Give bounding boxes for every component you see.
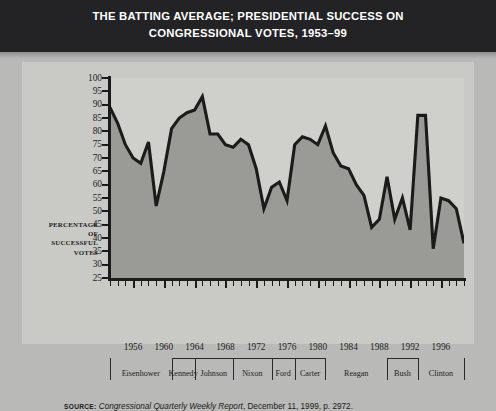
term-label-carter: Carter	[300, 369, 320, 378]
x-tick-label-1968: 1968	[216, 342, 235, 352]
x-tickmark-1982	[333, 281, 334, 286]
term-label-reagan: Reagan	[344, 369, 368, 378]
y-tickmark-70	[102, 157, 108, 159]
x-tick-label-1964: 1964	[185, 342, 204, 352]
y-tickmark-100	[102, 77, 108, 79]
y-tick-label-35: 35	[68, 246, 102, 256]
y-tickmark-55	[102, 197, 108, 199]
x-tickmark-1972	[256, 281, 258, 288]
x-tickmark-1970	[241, 281, 242, 286]
x-tickmark-1976	[287, 281, 289, 288]
x-axis-tick-labels: 1956196019641968197219761980198419881992…	[110, 342, 464, 356]
x-tickmark-1994	[426, 281, 427, 286]
y-tick-label-40: 40	[68, 233, 102, 243]
x-tickmark-1956	[133, 281, 135, 288]
x-tickmark-1978	[302, 281, 303, 286]
y-tickmark-40	[102, 237, 108, 239]
x-tickmark-1992	[410, 281, 412, 288]
x-tickmark-1999	[464, 281, 465, 286]
page-right-margin	[474, 59, 496, 368]
x-tickmark-1984	[349, 281, 351, 288]
x-tickmark-1986	[364, 281, 365, 286]
x-tickmark-1973	[264, 281, 265, 286]
x-tick-label-1976: 1976	[278, 342, 297, 352]
figure-panel: PERCENTAGE OF SUCCESSFUL VOTES 253035404…	[22, 62, 474, 344]
x-tickmark-1990	[395, 281, 396, 286]
y-tick-label-45: 45	[68, 219, 102, 229]
y-tickmark-95	[102, 90, 108, 92]
x-tickmark-1958	[148, 281, 149, 286]
y-tick-label-55: 55	[68, 193, 102, 203]
term-label-kennedy: Kennedy	[169, 369, 198, 378]
title-band-shadow	[0, 52, 496, 59]
x-tickmark-1957	[141, 281, 142, 286]
chart-title-line-1: THE BATTING AVERAGE; PRESIDENTIAL SUCCES…	[0, 8, 496, 25]
x-tickmark-1968	[225, 281, 227, 288]
y-tickmark-25	[102, 277, 108, 279]
x-tickmark-1974	[272, 281, 273, 286]
y-tick-label-80: 80	[68, 126, 102, 136]
x-tickmark-1987	[372, 281, 373, 286]
x-tick-label-1960: 1960	[155, 342, 174, 352]
area-fill	[110, 97, 464, 278]
title-band: THE BATTING AVERAGE; PRESIDENTIAL SUCCES…	[0, 0, 496, 52]
x-tickmark-1977	[295, 281, 296, 286]
term-brace-kennedy	[172, 358, 195, 368]
term-brace-nixon	[233, 358, 271, 368]
x-tickmark-1962	[179, 281, 180, 286]
x-tickmark-1981	[325, 281, 326, 286]
plot-area	[110, 78, 464, 278]
x-tickmark-1966	[210, 281, 211, 286]
x-tickmark-1995	[433, 281, 434, 286]
presidential-terms-band: EisenhowerKennedyJohnsonNixonFordCarterR…	[110, 358, 470, 384]
x-tickmark-1988	[379, 281, 381, 288]
source-note: SOURCE: Congressional Quarterly Weekly R…	[64, 402, 494, 411]
x-tickmark-1953	[110, 281, 111, 286]
x-tickmark-1997	[449, 281, 450, 286]
x-tickmark-1965	[202, 281, 203, 286]
term-divider-1981	[325, 358, 326, 380]
term-label-bush: Bush	[394, 369, 411, 378]
term-label-clinton: Clinton	[429, 369, 453, 378]
term-brace-ford	[272, 358, 295, 368]
y-tickmark-90	[102, 104, 108, 106]
y-tick-label-70: 70	[68, 153, 102, 163]
y-tickmark-45	[102, 224, 108, 226]
x-tick-label-1988: 1988	[370, 342, 389, 352]
x-tickmark-1989	[387, 281, 388, 286]
x-tickmark-1969	[233, 281, 234, 286]
term-label-eisenhower: Eisenhower	[122, 369, 160, 378]
x-tickmark-1975	[279, 281, 280, 286]
y-tickmark-80	[102, 130, 108, 132]
x-tickmark-1980	[318, 281, 320, 288]
x-tickmark-1961	[172, 281, 173, 286]
term-label-nixon: Nixon	[242, 369, 262, 378]
y-axis-line	[108, 76, 111, 280]
x-tick-label-1972: 1972	[247, 342, 266, 352]
term-label-ford: Ford	[275, 369, 290, 378]
y-tickmark-35	[102, 250, 108, 252]
x-tickmark-1979	[310, 281, 311, 286]
x-tickmark-1964	[195, 281, 197, 288]
x-tickmark-1954	[118, 281, 119, 286]
x-tickmark-1967	[218, 281, 219, 286]
y-tickmark-50	[102, 210, 108, 212]
y-tick-label-25: 25	[68, 273, 102, 283]
term-divider-1953	[110, 358, 111, 380]
x-tick-label-1992: 1992	[401, 342, 420, 352]
term-divider-1993	[418, 358, 419, 380]
x-tickmark-1985	[356, 281, 357, 286]
x-tick-label-1980: 1980	[308, 342, 327, 352]
x-tickmark-1960	[164, 281, 166, 288]
y-tick-label-90: 90	[68, 99, 102, 109]
y-tickmark-65	[102, 170, 108, 172]
chart-title: THE BATTING AVERAGE; PRESIDENTIAL SUCCES…	[0, 8, 496, 41]
y-tick-label-75: 75	[68, 139, 102, 149]
source-publication: Congressional Quarterly Weekly Report	[97, 402, 243, 411]
term-brace-bush	[387, 358, 418, 368]
y-tick-label-60: 60	[68, 179, 102, 189]
y-tickmark-85	[102, 117, 108, 119]
x-tickmark-1996	[441, 281, 443, 288]
x-tickmark-1983	[341, 281, 342, 286]
y-tick-label-65: 65	[68, 166, 102, 176]
